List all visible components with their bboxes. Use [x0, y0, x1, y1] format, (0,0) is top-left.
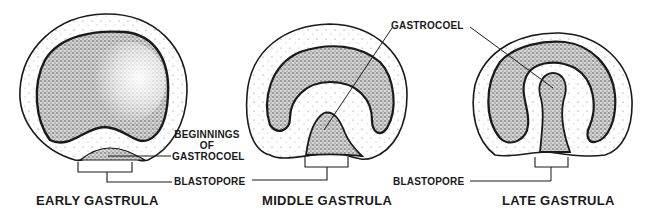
gastrocoel-label: GASTROCOEL [391, 21, 464, 31]
early-gastrula-drawing [20, 14, 187, 182]
late-gastrula-drawing [470, 27, 632, 181]
blastopore-label-early: BLASTOPORE [174, 177, 245, 187]
gastrocoel-line: GASTROCOEL [172, 152, 242, 162]
beginnings-of-gastrocoel-label: BEGINNINGS OF GASTROCOEL [172, 130, 242, 162]
diagram-drawing [0, 0, 647, 218]
caption-early-gastrula: EARLY GASTRULA [36, 194, 159, 207]
middle-gastrula-drawing [247, 24, 407, 180]
caption-late-gastrula: LATE GASTRULA [502, 194, 615, 207]
of-line: OF [172, 141, 242, 151]
gastrula-diagram: BEGINNINGS OF GASTROCOEL BLASTOPORE BLAS… [0, 0, 647, 218]
beginnings-line: BEGINNINGS [172, 130, 242, 140]
blastopore-label-late: BLASTOPORE [393, 177, 464, 187]
caption-middle-gastrula: MIDDLE GASTRULA [262, 194, 392, 207]
